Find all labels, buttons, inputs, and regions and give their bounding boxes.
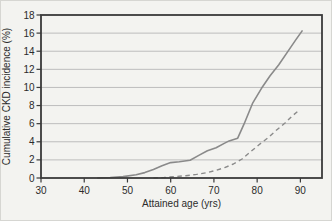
y-tick-label: 8 [29, 100, 35, 111]
y-tick-labels: 024681012141618 [23, 10, 35, 184]
y-tick-label: 10 [23, 82, 35, 93]
series-dashed-line [153, 111, 298, 178]
x-tick-label: 30 [35, 185, 47, 196]
x-tick-label: 90 [295, 185, 307, 196]
y-tick-label: 6 [29, 118, 35, 129]
y-axis-title: Cumulative CKD incidence (%) [1, 28, 12, 165]
y-tick-label: 4 [29, 136, 35, 147]
y-tick-label: 16 [23, 28, 35, 39]
x-tick-label: 70 [208, 185, 220, 196]
y-tick-label: 0 [29, 173, 35, 184]
x-axis-title: Attained age (yrs) [142, 198, 221, 209]
axis-ticks [37, 15, 301, 183]
ckd-incidence-chart: 30405060708090 024681012141618 Attained … [1, 1, 331, 220]
plot-frame [41, 15, 322, 178]
y-tick-label: 2 [29, 154, 35, 165]
y-tick-label: 12 [23, 64, 35, 75]
y-tick-label: 18 [23, 10, 35, 21]
gridlines [41, 33, 322, 160]
x-tick-label: 60 [165, 185, 177, 196]
data-series [97, 30, 302, 178]
x-tick-label: 40 [79, 185, 91, 196]
y-tick-label: 14 [23, 46, 35, 57]
x-tick-labels: 30405060708090 [35, 185, 306, 196]
series-solid-line [97, 30, 302, 178]
x-tick-label: 50 [122, 185, 134, 196]
ckd-incidence-figure: 30405060708090 024681012141618 Attained … [0, 0, 332, 221]
x-tick-label: 80 [252, 185, 264, 196]
